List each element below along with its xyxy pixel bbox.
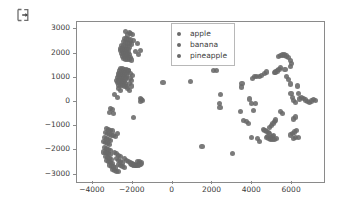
data-point — [274, 136, 279, 141]
data-point — [238, 109, 243, 114]
data-point — [127, 88, 132, 93]
data-point — [313, 98, 318, 103]
chart-legend: applebananapineapple — [171, 23, 235, 66]
data-point — [249, 135, 254, 140]
y-tick-mark — [73, 101, 76, 102]
x-tick-label: −4000 — [72, 186, 112, 194]
x-tick-label: 6000 — [271, 186, 311, 194]
x-tick-label: −2000 — [112, 186, 152, 194]
legend-item-apple[interactable]: apple — [177, 28, 227, 39]
data-point — [199, 144, 204, 149]
legend-label: apple — [190, 30, 211, 38]
legend-label: pineapple — [190, 52, 227, 60]
y-tick-label: 3000 — [30, 24, 70, 32]
data-point — [250, 76, 255, 81]
x-tick-mark — [291, 181, 292, 184]
data-point — [253, 101, 258, 106]
y-tick-label: 2000 — [30, 49, 70, 57]
x-tick-label: 4000 — [231, 186, 271, 194]
y-tick-mark — [73, 28, 76, 29]
y-tick-label: 0 — [30, 97, 70, 105]
data-point — [138, 99, 143, 104]
y-tick-mark — [73, 174, 76, 175]
legend-item-pineapple[interactable]: pineapple — [177, 50, 227, 61]
y-tick-label: −2000 — [30, 145, 70, 153]
legend-label: banana — [190, 41, 218, 49]
data-point — [160, 80, 165, 85]
scatter-plot: applebananapineapple — [76, 21, 325, 183]
x-tick-label: 0 — [152, 186, 192, 194]
x-tick-mark — [251, 181, 252, 184]
x-tick-mark — [211, 181, 212, 184]
data-point — [264, 69, 269, 74]
data-point — [288, 81, 293, 86]
data-point — [239, 84, 244, 89]
data-point — [111, 111, 116, 116]
data-point — [230, 151, 235, 156]
data-point — [118, 88, 123, 93]
data-point — [122, 165, 127, 170]
data-point — [218, 92, 223, 97]
data-point — [280, 111, 285, 116]
legend-item-banana[interactable]: banana — [177, 39, 227, 50]
data-point — [217, 105, 222, 110]
export-icon[interactable] — [15, 7, 31, 23]
data-point — [273, 117, 278, 122]
y-tick-mark — [73, 125, 76, 126]
data-point — [130, 32, 135, 37]
data-point — [115, 95, 120, 100]
data-point — [116, 169, 121, 174]
data-point — [131, 115, 136, 120]
data-point — [135, 159, 140, 164]
y-tick-label: −3000 — [30, 170, 70, 178]
data-point — [291, 116, 296, 121]
x-tick-label: 2000 — [191, 186, 231, 194]
data-point — [296, 135, 301, 140]
data-point — [282, 67, 287, 72]
x-tick-mark — [172, 181, 173, 184]
data-point — [295, 83, 300, 88]
data-point — [138, 48, 143, 53]
legend-marker-icon — [177, 54, 181, 58]
data-point — [251, 108, 256, 113]
y-tick-mark — [73, 53, 76, 54]
x-tick-mark — [92, 181, 93, 184]
y-tick-label: 1000 — [30, 73, 70, 81]
x-tick-mark — [132, 181, 133, 184]
y-tick-mark — [73, 149, 76, 150]
legend-marker-icon — [177, 32, 181, 36]
data-point — [129, 57, 134, 62]
y-tick-label: −1000 — [30, 121, 70, 129]
data-point — [214, 68, 219, 73]
legend-marker-icon — [177, 43, 181, 47]
data-point — [188, 79, 193, 84]
data-point — [246, 121, 251, 126]
data-point — [288, 64, 293, 69]
y-tick-mark — [73, 77, 76, 78]
data-point — [115, 131, 120, 136]
data-point — [135, 41, 140, 46]
screenshot-canvas: applebananapineapple 3000200010000−1000−… — [0, 0, 346, 213]
